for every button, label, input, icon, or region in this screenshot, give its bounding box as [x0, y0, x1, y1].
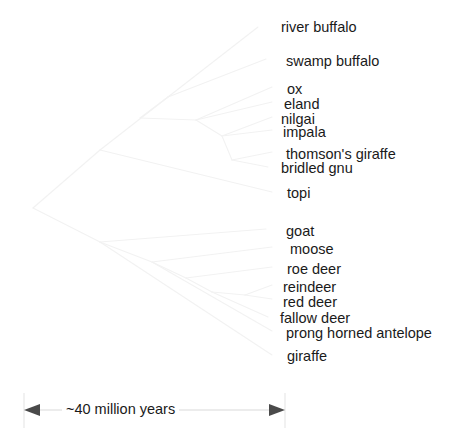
leaf-label: moose	[290, 242, 334, 257]
leaf-label: impala	[283, 125, 326, 140]
tree-branches	[0, 0, 472, 448]
leaf-label: topi	[287, 186, 310, 201]
leaf-label: red deer	[283, 295, 337, 310]
leaf-label: eland	[284, 97, 319, 112]
leaf-label: swamp buffalo	[286, 54, 379, 69]
leaf-label: bridled gnu	[281, 161, 353, 176]
leaf-label: river buffalo	[281, 20, 357, 35]
leaf-label: ox	[287, 82, 302, 97]
leaf-label: roe deer	[287, 262, 341, 277]
scale-bar-caption: ~40 million years	[62, 402, 179, 417]
leaf-label: giraffe	[287, 349, 327, 364]
leaf-label: prong horned antelope	[286, 326, 432, 341]
leaf-label: reindeer	[283, 280, 336, 295]
leaf-label: fallow deer	[280, 311, 350, 326]
phylogenetic-tree-figure: river buffalo swamp buffalo ox eland nil…	[0, 0, 472, 448]
leaf-label: goat	[286, 224, 314, 239]
